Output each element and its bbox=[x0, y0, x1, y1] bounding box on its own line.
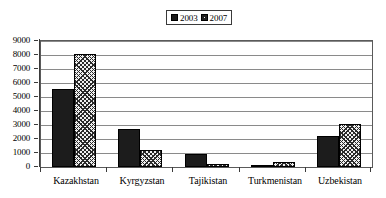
bar-group-kazakhstan bbox=[52, 41, 96, 167]
y-tick-label-1000: 1000 bbox=[13, 148, 30, 157]
y-tick-mark bbox=[34, 152, 38, 153]
y-tick-label-0: 0 bbox=[26, 162, 30, 171]
y-tick-mark bbox=[34, 54, 38, 55]
y-axis: 9000 8000 7000 6000 5000 4000 3000 2000 … bbox=[0, 40, 34, 166]
bar-uzbekistan-2003 bbox=[317, 136, 339, 167]
y-tick-mark bbox=[34, 110, 38, 111]
bar-group-uzbekistan bbox=[317, 41, 361, 167]
y-tick-mark bbox=[34, 82, 38, 83]
y-tick-mark bbox=[34, 40, 38, 41]
y-tick-mark bbox=[34, 96, 38, 97]
x-tick-label-kazakhstan: Kazakhstan bbox=[53, 174, 99, 187]
y-tick-label-9000: 9000 bbox=[13, 36, 30, 45]
bar-kazakhstan-2003 bbox=[52, 89, 74, 167]
y-tick-label-6000: 6000 bbox=[13, 78, 30, 87]
x-axis: Kazakhstan Kyrgyzstan Tajikistan Turkmen… bbox=[40, 174, 371, 190]
y-tick-label-3000: 3000 bbox=[13, 120, 30, 129]
y-tick-mark bbox=[34, 166, 38, 167]
bar-group-kyrgyzstan bbox=[118, 41, 162, 167]
legend-label-2007: 2007 bbox=[210, 13, 228, 23]
bar-kazakhstan-2007 bbox=[74, 54, 96, 167]
bar-uzbekistan-2007 bbox=[339, 124, 361, 167]
y-tick-label-7000: 7000 bbox=[13, 64, 30, 73]
y-tick-label-2000: 2000 bbox=[13, 134, 30, 143]
x-tick-label-turkmenistan: Turkmenistan bbox=[248, 174, 302, 187]
bars-layer bbox=[41, 41, 372, 167]
x-axis-ticks bbox=[40, 167, 371, 172]
x-tick-mark bbox=[172, 167, 173, 172]
x-tick-mark bbox=[239, 167, 240, 172]
bar-kyrgyzstan-2007 bbox=[140, 150, 162, 168]
x-tick-mark bbox=[106, 167, 107, 172]
y-tick-mark bbox=[34, 124, 38, 125]
y-tick-label-4000: 4000 bbox=[13, 106, 30, 115]
x-tick-label-kyrgyzstan: Kyrgyzstan bbox=[120, 174, 165, 187]
bar-group-tajikistan bbox=[185, 41, 229, 167]
legend-swatch-solid-icon bbox=[171, 14, 178, 21]
chart-legend: 2003 2007 bbox=[166, 10, 232, 25]
x-tick-label-tajikistan: Tajikistan bbox=[189, 174, 227, 187]
x-tick-mark bbox=[370, 167, 371, 172]
x-tick-label-uzbekistan: Uzbekistan bbox=[318, 174, 362, 187]
legend-label-2003: 2003 bbox=[180, 13, 198, 23]
y-tick-mark bbox=[34, 68, 38, 69]
x-tick-mark bbox=[40, 167, 41, 172]
legend-entry-2003: 2003 bbox=[171, 11, 198, 24]
plot-area bbox=[40, 40, 373, 168]
y-tick-mark bbox=[34, 138, 38, 139]
bar-kyrgyzstan-2003 bbox=[118, 129, 140, 167]
legend-swatch-hatched-icon bbox=[201, 14, 208, 21]
x-tick-mark bbox=[305, 167, 306, 172]
legend-entry-2007: 2007 bbox=[201, 11, 228, 24]
bar-chart-figure: 2003 2007 9000 8000 7000 6000 5000 4000 … bbox=[0, 0, 386, 198]
y-tick-label-8000: 8000 bbox=[13, 50, 30, 59]
bar-tajikistan-2003 bbox=[185, 154, 207, 167]
bar-group-turkmenistan bbox=[251, 41, 295, 167]
y-tick-label-5000: 5000 bbox=[13, 92, 30, 101]
